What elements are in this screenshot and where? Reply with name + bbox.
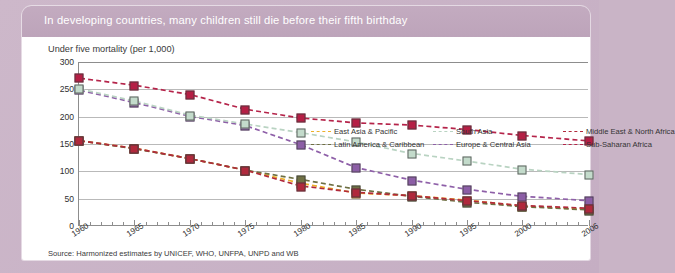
- data-point-marker: [463, 157, 472, 166]
- data-point-marker: [185, 90, 194, 99]
- legend-item[interactable]: Sub-Saharan Africa: [563, 140, 675, 149]
- legend-label: Latin America & Caribbean: [334, 140, 424, 149]
- data-point-marker: [407, 176, 416, 185]
- legend-item[interactable]: Latin America & Caribbean: [311, 140, 433, 149]
- legend-swatch-icon: [433, 131, 453, 132]
- y-axis-tick-label: 250: [44, 84, 74, 94]
- data-point-marker: [241, 166, 250, 175]
- data-point-marker: [241, 105, 250, 114]
- legend-label: South Asia: [456, 127, 492, 136]
- data-point-marker: [518, 165, 527, 174]
- data-point-marker: [185, 155, 194, 164]
- data-point-marker: [296, 141, 305, 150]
- legend-label: Europe & Central Asia: [456, 140, 531, 149]
- data-point-marker: [518, 202, 527, 211]
- data-point-marker: [518, 193, 527, 202]
- source-note: Source: Harmonized estimates by UNICEF, …: [48, 249, 299, 258]
- data-point-marker: [352, 189, 361, 198]
- chart-legend: East Asia & PacificSouth AsiaMiddle East…: [311, 125, 641, 151]
- legend-item[interactable]: South Asia: [433, 127, 563, 136]
- legend-label: Sub-Saharan Africa: [586, 140, 652, 149]
- plot-area: East Asia & PacificSouth AsiaMiddle East…: [78, 62, 588, 226]
- y-axis-tick-label: 100: [44, 166, 74, 176]
- legend-swatch-icon: [311, 131, 331, 132]
- legend-item[interactable]: Europe & Central Asia: [433, 140, 563, 149]
- legend-item[interactable]: East Asia & Pacific: [311, 127, 433, 136]
- data-point-marker: [296, 182, 305, 191]
- data-point-marker: [130, 81, 139, 90]
- legend-swatch-icon: [311, 144, 331, 145]
- page-title: In developing countries, many children s…: [44, 14, 407, 26]
- y-axis-tick-label: 150: [44, 139, 74, 149]
- data-point-marker: [585, 171, 594, 180]
- y-axis-tick-label: 0: [44, 221, 74, 231]
- y-axis-tick-labels: 050100150200250300: [42, 62, 74, 226]
- legend-swatch-icon: [563, 144, 583, 145]
- y-axis-tick-label: 50: [44, 194, 74, 204]
- data-point-marker: [75, 85, 84, 94]
- data-point-marker: [463, 197, 472, 206]
- y-axis-title: Under five mortality (per 1,000): [48, 44, 175, 54]
- legend-swatch-icon: [563, 131, 583, 132]
- data-point-marker: [296, 129, 305, 138]
- legend-item[interactable]: Middle East & North Africa: [563, 127, 675, 136]
- card-titlebar: In developing countries, many children s…: [22, 6, 590, 37]
- series-line: [80, 141, 587, 209]
- series-line: [80, 141, 587, 210]
- legend-label: Middle East & North Africa: [586, 127, 675, 136]
- y-axis-tick-label: 300: [44, 57, 74, 67]
- data-point-marker: [585, 205, 594, 214]
- data-point-marker: [241, 120, 250, 129]
- legend-swatch-icon: [433, 144, 453, 145]
- y-axis-tick-label: 200: [44, 112, 74, 122]
- data-point-marker: [296, 114, 305, 123]
- data-point-marker: [75, 137, 84, 146]
- data-point-marker: [352, 164, 361, 173]
- data-point-marker: [463, 185, 472, 194]
- data-point-marker: [407, 192, 416, 201]
- data-point-marker: [130, 144, 139, 153]
- data-point-marker: [75, 74, 84, 83]
- chart-card: In developing countries, many children s…: [22, 6, 590, 260]
- data-point-marker: [185, 111, 194, 120]
- data-point-marker: [130, 97, 139, 106]
- legend-label: East Asia & Pacific: [334, 127, 397, 136]
